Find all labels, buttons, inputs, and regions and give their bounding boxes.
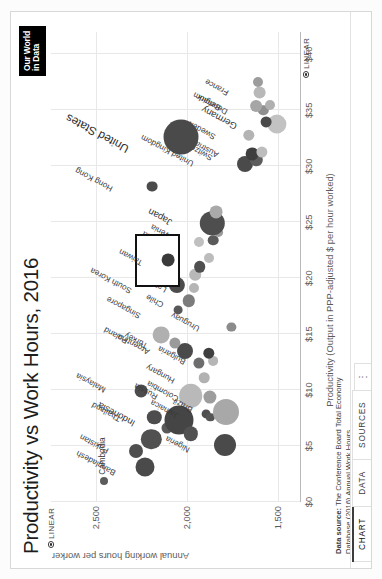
- tab-more-menu[interactable]: ⋮: [354, 362, 371, 390]
- data-point[interactable]: [161, 253, 174, 266]
- tab-chart[interactable]: CHART: [352, 505, 371, 561]
- data-point[interactable]: [257, 146, 268, 157]
- data-point[interactable]: [173, 305, 182, 314]
- x-gridline: [51, 221, 300, 222]
- data-point[interactable]: [147, 181, 158, 192]
- data-point[interactable]: [213, 399, 239, 425]
- data-point-label: Singapore: [105, 294, 142, 319]
- source-label: Data source:: [334, 507, 343, 553]
- x-tick-label: $20: [304, 270, 314, 286]
- data-point[interactable]: [141, 429, 161, 449]
- data-point[interactable]: [214, 433, 236, 455]
- screenshot-canvas: Productivity vs Work Hours, 2016 Our Wor…: [0, 0, 382, 579]
- scatter-plot[interactable]: $0$5$10$15$20$25$30$35$402,5002,0001,500…: [51, 32, 300, 502]
- tab-bar: CHARTDATASOURCES⋮: [350, 12, 371, 568]
- data-point[interactable]: [189, 283, 199, 293]
- y-axis-label: Annual working hours per worker: [52, 550, 189, 561]
- tab-data-label: DATA: [357, 470, 367, 494]
- source-line-1: Data source: The Conference Board Total …: [334, 26, 344, 554]
- radio-dot-icon: [303, 71, 310, 78]
- x-axis-line: [300, 32, 301, 502]
- data-point-label: Poland: [103, 325, 129, 344]
- x-tick-label: $10: [304, 382, 314, 398]
- x-gridline: [51, 501, 300, 502]
- tab-more-menu-label: ⋮: [357, 371, 368, 381]
- data-point-label: Hong Kong: [74, 166, 114, 192]
- data-point[interactable]: [203, 390, 216, 403]
- data-point[interactable]: [261, 116, 272, 127]
- data-point[interactable]: [253, 86, 266, 99]
- x-gridline: [51, 165, 300, 166]
- data-point[interactable]: [210, 205, 223, 218]
- x-tick-label: $0: [304, 496, 314, 506]
- data-point[interactable]: [129, 443, 143, 457]
- x-gridline: [51, 389, 300, 390]
- y-axis-scale-toggle[interactable]: LINEAR: [47, 507, 56, 547]
- data-point[interactable]: [243, 129, 254, 140]
- x-gridline: [51, 333, 300, 334]
- data-point[interactable]: [227, 322, 236, 331]
- x-tick-label: $15: [304, 326, 314, 342]
- data-point[interactable]: [253, 77, 263, 87]
- tab-sources-label: SOURCES: [357, 401, 367, 447]
- x-scale-label: LINEAR: [302, 37, 311, 68]
- data-point[interactable]: [100, 476, 108, 484]
- data-point-label: Japan: [147, 207, 174, 227]
- tab-data[interactable]: DATA: [352, 458, 371, 506]
- plot-area: $0$5$10$15$20$25$30$35$402,5002,0001,500…: [45, 26, 334, 554]
- y-scale-label: LINEAR: [47, 507, 56, 538]
- data-point-label: Chile: [145, 291, 165, 307]
- x-axis-scale-toggle[interactable]: LINEAR: [302, 37, 311, 77]
- data-point[interactable]: [193, 357, 204, 368]
- chart-header: Productivity vs Work Hours, 2016 Our Wor…: [11, 12, 43, 568]
- owid-chart-embed: Productivity vs Work Hours, 2016 Our Wor…: [10, 11, 372, 569]
- data-point[interactable]: [204, 253, 214, 263]
- page-title: Productivity vs Work Hours, 2016: [20, 26, 43, 554]
- x-axis-label: Productivity (Output in PPP-adjusted $ p…: [324, 173, 335, 406]
- data-point[interactable]: [194, 261, 206, 273]
- data-point[interactable]: [153, 326, 170, 343]
- data-point[interactable]: [265, 99, 275, 109]
- data-point[interactable]: [182, 294, 194, 306]
- y-gridline: [278, 32, 279, 502]
- y-tick-label: 2,000: [182, 506, 192, 548]
- x-tick-label: $35: [304, 102, 314, 118]
- radio-dot-icon: [48, 541, 55, 548]
- data-point[interactable]: [184, 426, 198, 440]
- rotated-chart-wrapper: Productivity vs Work Hours, 2016 Our Wor…: [10, 11, 372, 569]
- data-point-label: United States: [64, 112, 131, 155]
- data-point[interactable]: [194, 237, 204, 247]
- data-point[interactable]: [169, 337, 180, 348]
- tab-chart-label: CHART: [357, 517, 367, 549]
- y-tick-label: 1,500: [273, 506, 283, 548]
- x-tick-label: $5: [304, 440, 314, 450]
- y-tick-label: 2,500: [91, 506, 101, 548]
- tab-sources[interactable]: SOURCES: [352, 389, 371, 459]
- data-point[interactable]: [163, 119, 198, 154]
- x-gridline: [51, 53, 300, 54]
- data-point[interactable]: [203, 347, 214, 358]
- data-point[interactable]: [135, 457, 154, 476]
- source-text-1: The Conference Board Total Economy: [334, 377, 343, 506]
- data-point-label: France: [203, 77, 229, 96]
- x-tick-label: $25: [304, 214, 314, 230]
- data-point[interactable]: [199, 372, 210, 383]
- x-tick-label: $30: [304, 158, 314, 174]
- owid-logo[interactable]: Our World in Data: [19, 26, 46, 76]
- data-point[interactable]: [250, 99, 262, 111]
- owid-logo-line2: in Data: [32, 31, 41, 71]
